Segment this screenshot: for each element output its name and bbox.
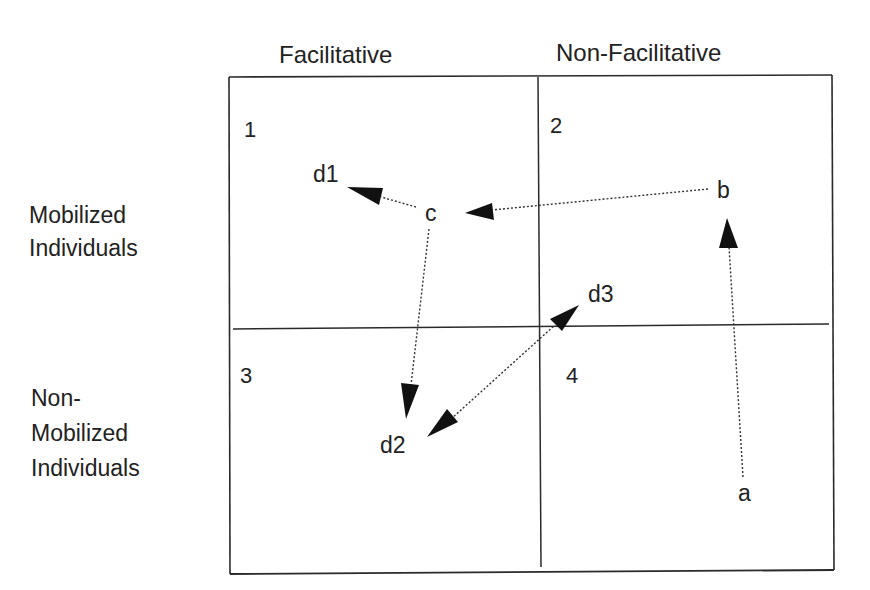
point-a: a: [738, 479, 751, 508]
point-d1: d1: [313, 160, 339, 189]
row-header-non-mobilized-line2: Mobilized: [31, 419, 128, 448]
column-header-facilitative: Facilitative: [279, 40, 392, 69]
row-header-mobilized-line1: Mobilized: [29, 201, 126, 230]
quadrant-diagram: Facilitative Non-Facilitative Mobilized …: [0, 0, 870, 590]
arrow-b-to-c: [465, 189, 708, 220]
point-b: b: [717, 176, 730, 205]
point-d2: d2: [380, 431, 406, 460]
arrow-c-to-d2: [401, 229, 429, 419]
horizontal-divider: [233, 324, 829, 329]
arrow-c-to-d1: [347, 187, 416, 207]
row-header-non-mobilized-line3: Individuals: [31, 454, 140, 483]
quadrant-number-2: 2: [550, 111, 562, 140]
arrow-a-to-b: [719, 218, 743, 477]
row-header-non-mobilized-line1: Non-: [31, 384, 81, 413]
quadrant-number-1: 1: [244, 115, 256, 144]
point-c: c: [425, 199, 437, 228]
quadrant-number-4: 4: [566, 361, 578, 390]
point-d3: d3: [588, 280, 614, 309]
quadrant-number-3: 3: [240, 361, 252, 390]
column-header-non-facilitative: Non-Facilitative: [556, 38, 721, 67]
arrow-d2-to-d3: [427, 305, 579, 437]
row-header-mobilized-line2: Individuals: [29, 234, 138, 263]
vertical-divider: [538, 77, 541, 567]
